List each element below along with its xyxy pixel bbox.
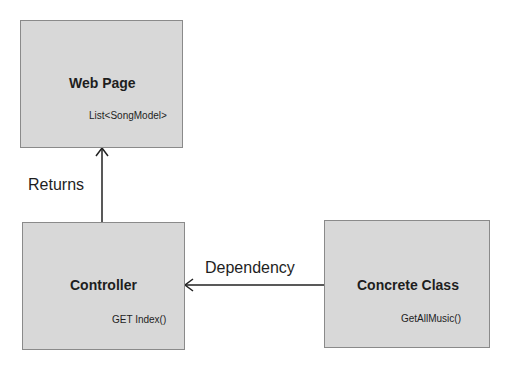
- node-title: Controller: [70, 277, 137, 293]
- node-subtitle: GET Index(): [112, 314, 166, 325]
- node-title: Concrete Class: [357, 277, 459, 293]
- node-title: Web Page: [69, 75, 136, 91]
- dependency-label: Dependency: [205, 259, 295, 277]
- node-subtitle: GetAllMusic(): [401, 313, 461, 324]
- returns-label: Returns: [28, 176, 84, 194]
- concrete-class-node: Concrete Class GetAllMusic(): [324, 220, 490, 348]
- web-page-node: Web Page List<SongModel>: [20, 20, 183, 148]
- node-subtitle: List<SongModel>: [89, 110, 167, 121]
- controller-node: Controller GET Index(): [22, 222, 185, 350]
